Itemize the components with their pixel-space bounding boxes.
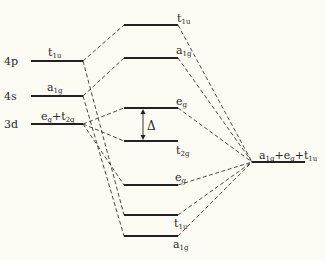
delta-arrow — [141, 109, 146, 140]
label-4p: 4p — [4, 56, 18, 67]
label-mo-t2g: t2g — [176, 145, 189, 160]
label-4p-sym: t1u — [48, 47, 61, 62]
label-4s-sym: a1g — [47, 82, 63, 97]
label-mo-a1g-bottom: a1g — [173, 239, 189, 254]
label-mo-eg-bottom: eg — [175, 172, 186, 187]
label-mo-t1u-bottom: t1u — [174, 218, 187, 233]
label-4s: 4s — [4, 91, 17, 102]
delta-label: Δ — [147, 121, 156, 132]
label-mo-t1u-top: t1u — [177, 13, 190, 28]
label-3d-sym: eg+t2g — [41, 111, 75, 126]
label-ligand: a1g+eg+t1u — [259, 150, 317, 165]
correlation-lines — [83, 25, 252, 236]
mo-diagram — [0, 0, 325, 260]
label-mo-eg-top: eg — [176, 96, 187, 111]
label-3d: 3d — [4, 119, 18, 130]
label-mo-a1g-top: a1g — [176, 45, 192, 60]
